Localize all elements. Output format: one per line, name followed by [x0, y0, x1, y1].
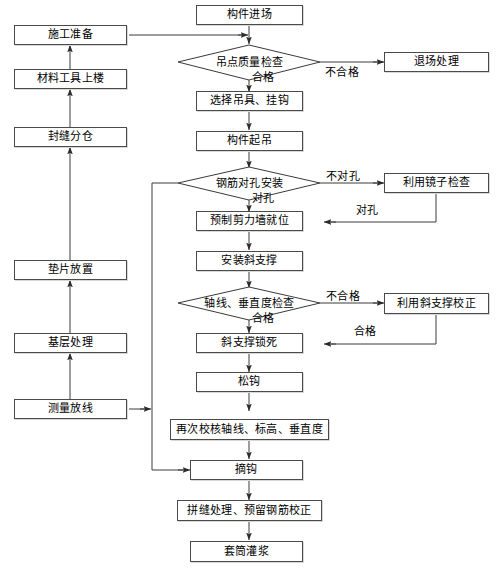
node-label: 吊点质量检查 — [216, 57, 284, 69]
node-label: 轴线、垂直度检查 — [204, 298, 294, 310]
node-select-rigging-hook[interactable]: 选择吊具、挂钩 — [196, 91, 303, 111]
node-component-hoisting[interactable]: 构件起吊 — [196, 131, 303, 151]
node-material-tools-upstairs[interactable]: 材料工具上楼 — [14, 69, 127, 89]
node-shim-placement[interactable]: 垫片放置 — [14, 260, 127, 280]
node-label: 拼缝处理、预留钢筋校正 — [187, 505, 311, 517]
node-unhook[interactable]: 摘钩 — [190, 460, 303, 480]
node-label: 选择吊具、挂钩 — [210, 95, 289, 107]
node-label: 预制剪力墙就位 — [210, 215, 289, 227]
node-label: 测量放线 — [48, 403, 93, 415]
edge-label-qualified-axis-down: 合格 — [252, 309, 275, 325]
node-check-with-mirror[interactable]: 利用镜子检查 — [384, 173, 489, 193]
node-label: 构件起吊 — [227, 135, 272, 147]
node-label: 松钩 — [238, 376, 261, 388]
node-correct-with-diagonal-brace[interactable]: 利用斜支撑校正 — [384, 293, 489, 314]
node-label: 利用镜子检查 — [403, 177, 471, 189]
node-lift-point-quality-check[interactable]: 吊点质量检查 — [180, 50, 319, 75]
node-seal-joint-compartment[interactable]: 封缝分仓 — [14, 127, 127, 147]
node-rebar-hole-alignment[interactable]: 钢筋对孔安装 — [180, 172, 319, 196]
edge-label-qualified-lift-point: 合格 — [252, 68, 275, 84]
node-loosen-hook[interactable]: 松钩 — [196, 372, 303, 392]
node-label: 安装斜支撑 — [221, 255, 278, 267]
node-base-treatment[interactable]: 基层处理 — [14, 333, 127, 353]
node-label: 基层处理 — [48, 337, 93, 349]
node-sleeve-grouting[interactable]: 套筒灌浆 — [190, 541, 303, 562]
node-label: 退场处理 — [414, 56, 459, 68]
flowchart-canvas: 构件进场 吊点质量检查 选择吊具、挂钩 构件起吊 钢筋对孔安装 预制剪力墙就位 … — [0, 0, 497, 575]
edge-label-unqualified-lift-point: 不合格 — [325, 63, 359, 79]
edge-label-holes-not-aligned: 不对孔 — [326, 167, 360, 183]
node-lock-diagonal-brace[interactable]: 斜支撑锁死 — [196, 333, 303, 353]
node-recheck-axis-elevation[interactable]: 再次校核轴线、标高、垂直度 — [170, 419, 329, 440]
node-label: 利用斜支撑校正 — [397, 298, 476, 310]
node-construction-preparation[interactable]: 施工准备 — [14, 25, 127, 45]
node-survey-setting-out[interactable]: 测量放线 — [14, 399, 127, 419]
node-label: 再次校核轴线、标高、垂直度 — [176, 424, 323, 436]
node-label: 材料工具上楼 — [37, 73, 105, 85]
node-label: 套筒灌浆 — [224, 546, 269, 558]
node-label: 斜支撑锁死 — [221, 337, 278, 349]
edge-label-holes-aligned-down: 对孔 — [252, 189, 275, 205]
edge-label-unqualified-axis: 不合格 — [326, 287, 360, 303]
node-exit-site-handling[interactable]: 退场处理 — [384, 52, 489, 72]
node-label: 构件进场 — [227, 9, 272, 21]
node-label: 封缝分仓 — [48, 131, 93, 143]
node-joint-treatment-rebar[interactable]: 拼缝处理、预留钢筋校正 — [177, 500, 322, 521]
node-label: 垫片放置 — [48, 264, 93, 276]
node-axis-verticality-check[interactable]: 轴线、垂直度检查 — [176, 292, 323, 316]
edge-label-qualified-axis-return: 合格 — [354, 322, 377, 338]
node-install-diagonal-brace[interactable]: 安装斜支撑 — [196, 251, 303, 271]
edge-label-holes-aligned-return: 对孔 — [356, 201, 379, 217]
node-component-arrival[interactable]: 构件进场 — [196, 5, 303, 25]
node-label: 摘钩 — [235, 464, 258, 476]
node-shear-wall-in-place[interactable]: 预制剪力墙就位 — [196, 211, 303, 231]
node-label: 施工准备 — [48, 29, 93, 41]
